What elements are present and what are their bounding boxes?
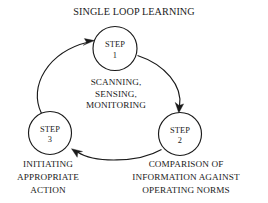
diagram-title: SINGLE LOOP LEARNING	[73, 6, 195, 17]
center-caption-line2: SENSING,	[95, 89, 137, 99]
step2-caption-line3: OPERATING NORMS	[142, 185, 230, 195]
arc-step1-to-step2	[138, 56, 180, 107]
node-step-1-label-line2: 1	[113, 51, 117, 60]
arc-step3-to-step1	[37, 42, 88, 114]
step2-caption-line1: COMPARISON OF	[149, 159, 224, 169]
node-step-3-label-line2: 3	[48, 135, 52, 144]
step3-caption-line1: INITIATING	[23, 159, 73, 169]
arrowhead-into-step1	[83, 39, 94, 46]
node-step-2-label-line1: STEP	[170, 126, 190, 135]
node-step-3-label-line1: STEP	[40, 125, 60, 134]
step3-caption-line2: APPROPRIATE	[17, 172, 79, 182]
node-step-2-label-line2: 2	[178, 136, 182, 145]
center-caption-line3: MONITORING	[86, 100, 146, 110]
node-step-1-label-line1: STEP	[105, 40, 125, 49]
center-caption-line1: SCANNING,	[91, 77, 142, 87]
diagram-canvas: SINGLE LOOP LEARNING STEP 1 SCANNING, SE…	[0, 0, 268, 203]
step3-caption-line3: ACTION	[30, 185, 66, 195]
arrowhead-into-step3	[72, 149, 83, 158]
step2-caption-line2: INFORMATION AGAINST	[132, 172, 240, 182]
single-loop-learning-diagram: SINGLE LOOP LEARNING STEP 1 SCANNING, SE…	[0, 0, 268, 203]
